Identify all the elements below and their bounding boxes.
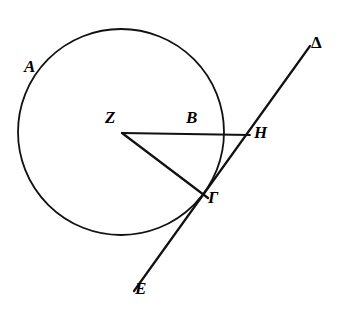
point-label-gamma: Γ [208,189,218,206]
geometry-canvas [0,0,346,322]
segment-z-to-gamma [122,133,208,198]
geometry-figure: A Z B H Γ Δ E [0,0,346,322]
point-label-a: A [24,58,35,75]
segment-z-to-h [122,133,250,135]
main-circle [18,29,224,235]
point-label-h: H [254,124,267,141]
point-label-delta: Δ [311,34,322,51]
line-e-to-delta [134,46,310,291]
point-label-b: B [186,109,197,126]
point-label-e: E [135,280,146,297]
point-label-z: Z [105,109,115,126]
